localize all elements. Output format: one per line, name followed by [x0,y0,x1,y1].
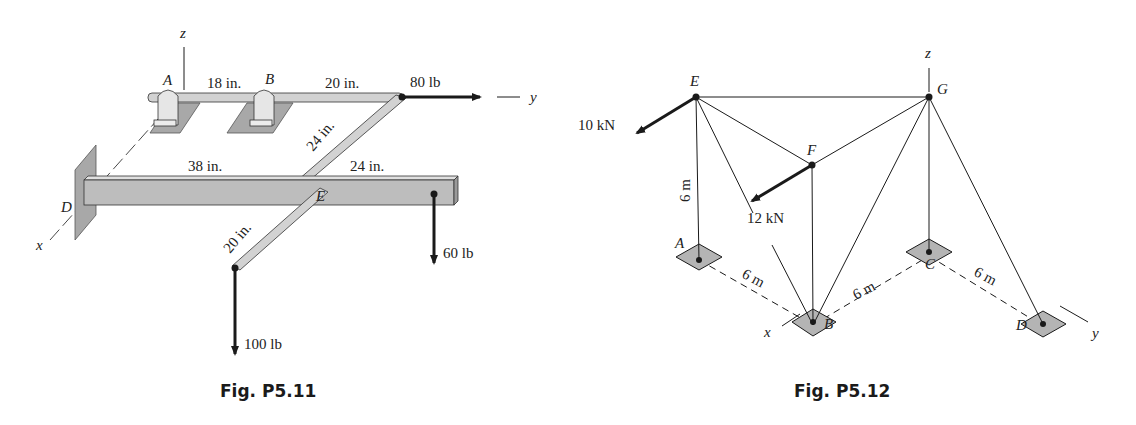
figure-p5-12: z x y [578,45,1099,401]
point-label-b-2: B [824,316,833,332]
dim-6m-ab: 6 m [740,266,768,291]
figure-caption-p5-12: Fig. P5.12 [794,381,890,401]
joint-a [696,257,702,263]
dim-24in-diagonal: 24 in. [303,117,337,153]
y-axis-2 [1060,306,1088,322]
point-label-a: A [162,72,173,88]
joint-g [926,94,933,101]
figure-p5-11: z x [35,25,537,401]
joint-b [810,319,816,325]
point-label-f-2: F [806,142,817,158]
dim-38in: 38 in. [188,158,222,174]
point-label-g-2: G [937,81,948,97]
force-label-10kn: 10 kN [578,117,615,133]
force-label-60lb: 60 lb [443,245,473,261]
joint-c [926,249,932,255]
dim-20in-top: 20 in. [325,75,359,91]
point-label-d-2: D [1015,317,1027,333]
dim-24in-right: 24 in. [350,158,384,174]
x-axis-label: x [35,237,43,253]
figure-caption-p5-11: Fig. P5.11 [220,381,316,401]
dim-6m-bc: 6 m [850,278,878,303]
point-label-d: D [60,199,72,215]
dim-6m-height: 6 m [677,179,693,202]
main-beam [84,176,458,205]
y-axis-label: y [528,89,537,105]
force-arrow-10kn [637,97,696,133]
point-label-c-2: C [925,256,936,272]
point-label-a-2: A [674,235,685,251]
point-label-e-2: E [689,73,699,89]
force-label-12kn: 12 kN [747,210,784,226]
joint-d [1040,321,1046,327]
force-label-100lb: 100 lb [244,336,282,352]
z-axis-label-2: z [924,45,931,61]
dim-18in: 18 in. [207,75,241,91]
shaft-ab [148,93,403,102]
point-label-b: B [265,71,274,87]
y-axis-label-2: y [1090,325,1099,341]
z-axis-label: z [179,25,186,41]
x-axis-label-2: x [763,324,771,340]
point-label-e: E [315,188,325,204]
force-label-80lb: 80 lb [410,74,440,90]
force-arrow-12kn [752,165,812,201]
